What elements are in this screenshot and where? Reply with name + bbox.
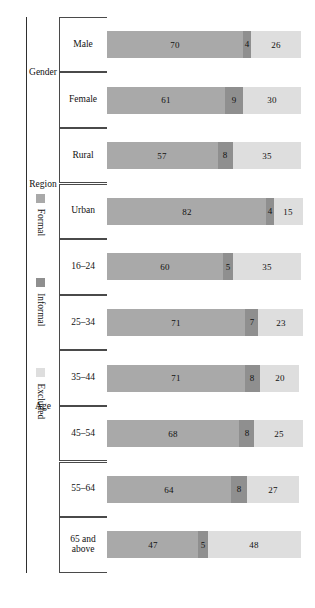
legend-swatch-informal <box>37 278 46 287</box>
bar-male: 26470 <box>107 31 301 58</box>
segment-value-label: 57 <box>158 151 167 161</box>
segment-informal: 4 <box>243 31 251 58</box>
segment-informal: 8 <box>239 420 255 447</box>
legend-item-excluded: Excluded <box>36 368 46 419</box>
group-rule-region <box>26 128 27 239</box>
legend-swatch-excluded <box>37 368 46 377</box>
segment-value-label: 35 <box>262 151 271 161</box>
segment-value-label: 26 <box>271 40 280 50</box>
segment-excluded: 27 <box>247 476 299 503</box>
legend-label-excluded: Excluded <box>36 383 46 419</box>
segment-formal: 60 <box>107 253 223 280</box>
category-label-urban: Urban <box>59 184 107 240</box>
legend-label-formal: Formal <box>36 209 46 236</box>
bar-female: 30961 <box>107 87 301 114</box>
bar-65-and-above: 48547 <box>107 531 301 558</box>
segment-value-label: 4 <box>268 206 273 216</box>
segment-excluded: 48 <box>208 531 301 558</box>
segment-excluded: 23 <box>258 309 303 336</box>
segment-value-label: 8 <box>223 151 228 161</box>
segment-value-label: 8 <box>237 484 242 494</box>
category-label-16-24: 16–24 <box>59 239 107 295</box>
segment-value-label: 60 <box>161 262 170 272</box>
category-label-65-and-above: 65 and above <box>59 517 107 573</box>
segment-value-label: 20 <box>275 373 284 383</box>
category-label-rural: Rural <box>59 128 107 184</box>
bar-urban: 15482 <box>107 198 303 225</box>
chart-legend: FormalInformalExcluded <box>31 19 51 594</box>
bar-rural: 35857 <box>107 142 301 169</box>
segment-formal: 64 <box>107 476 231 503</box>
segment-formal: 47 <box>107 531 198 558</box>
segment-value-label: 15 <box>284 206 293 216</box>
legend-label-informal: Informal <box>36 293 46 326</box>
category-axis: MaleFemaleRuralUrban16–2425–3435–4445–54… <box>5 19 107 594</box>
segment-formal: 71 <box>107 365 245 392</box>
segment-excluded: 35 <box>233 142 301 169</box>
category-label-55-64: 55–64 <box>59 462 107 518</box>
segment-value-label: 23 <box>276 318 285 328</box>
segment-value-label: 47 <box>148 540 157 550</box>
segment-informal: 4 <box>266 198 274 225</box>
segment-excluded: 20 <box>260 365 299 392</box>
segment-excluded: 35 <box>233 253 301 280</box>
bar-35-44: 20871 <box>107 365 299 392</box>
segment-value-label: 68 <box>168 429 177 439</box>
segment-formal: 57 <box>107 142 218 169</box>
bar-16-24: 35560 <box>107 253 301 280</box>
segment-value-label: 8 <box>244 429 249 439</box>
segment-value-label: 35 <box>262 262 271 272</box>
category-label-45-54: 45–54 <box>59 406 107 462</box>
segment-excluded: 15 <box>274 198 303 225</box>
segment-value-label: 8 <box>250 373 255 383</box>
group-rule-gender <box>26 17 27 128</box>
segment-informal: 8 <box>231 476 247 503</box>
segment-value-label: 7 <box>249 317 254 327</box>
bar-45-54: 25868 <box>107 420 303 447</box>
bar-25-34: 23771 <box>107 309 303 336</box>
legend-item-formal: Formal <box>36 194 46 236</box>
segment-informal: 5 <box>223 253 233 280</box>
segment-excluded: 30 <box>243 87 301 114</box>
segment-informal: 7 <box>245 309 259 336</box>
segment-value-label: 30 <box>267 95 276 105</box>
legend-wrap: FormalInformalExcluded <box>31 19 51 594</box>
legend-item-informal: Informal <box>36 278 46 326</box>
category-label-male: Male <box>59 17 107 73</box>
category-label-35-44: 35–44 <box>59 350 107 406</box>
segment-value-label: 82 <box>182 206 191 216</box>
segment-value-label: 4 <box>244 39 249 49</box>
segment-informal: 9 <box>225 87 242 114</box>
segment-formal: 70 <box>107 31 243 58</box>
segment-value-label: 61 <box>161 95 170 105</box>
segment-formal: 68 <box>107 420 239 447</box>
category-label-25-34: 25–34 <box>59 295 107 351</box>
segment-value-label: 25 <box>274 429 283 439</box>
segment-value-label: 5 <box>226 262 231 272</box>
category-label-female: Female <box>59 72 107 128</box>
segment-value-label: 48 <box>250 540 259 550</box>
segment-value-label: 71 <box>171 373 180 383</box>
bar-55-64: 27864 <box>107 476 299 503</box>
chart-stage: MaleFemaleRuralUrban16–2425–3435–4445–54… <box>5 19 309 594</box>
segment-excluded: 26 <box>251 31 301 58</box>
segment-value-label: 70 <box>170 40 179 50</box>
scan-edge <box>309 0 315 608</box>
group-rule-age <box>26 239 27 573</box>
segment-value-label: 64 <box>164 484 173 494</box>
segment-informal: 8 <box>218 142 234 169</box>
segment-informal: 5 <box>198 531 208 558</box>
segment-value-label: 9 <box>232 95 237 105</box>
segment-formal: 71 <box>107 309 245 336</box>
segment-formal: 61 <box>107 87 225 114</box>
segment-formal: 82 <box>107 198 266 225</box>
segment-value-label: 71 <box>171 318 180 328</box>
legend-swatch-formal <box>37 194 46 203</box>
segment-value-label: 5 <box>201 540 206 550</box>
segment-excluded: 25 <box>254 420 303 447</box>
segment-value-label: 27 <box>268 484 277 494</box>
segment-informal: 8 <box>245 365 261 392</box>
